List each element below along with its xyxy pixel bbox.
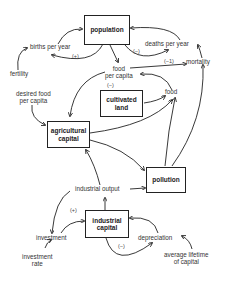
investment-rate-line2: rate	[22, 260, 52, 267]
desired-food-line2: per capita	[16, 97, 51, 104]
var-fertility: fertility	[10, 70, 28, 77]
loop-sign-depreciation: (−)	[118, 243, 125, 249]
stock-industrial-capital: industrial capital	[85, 210, 129, 238]
stock-pollution: pollution	[146, 167, 186, 193]
var-food-per-capita: food per capita	[105, 65, 133, 79]
stock-cultivated-land: cultivated land	[100, 90, 143, 117]
investment-rate-line1: investment	[22, 253, 52, 260]
var-desired-food-per-capita: desired food per capita	[16, 90, 51, 104]
stock-agricultural-capital: agricultural capital	[47, 121, 90, 148]
var-births-per-year: births per year	[30, 43, 70, 50]
food-per-capita-line2: per capita	[105, 72, 133, 79]
var-deaths-per-year: deaths per year	[145, 40, 189, 47]
desired-food-line1: desired food	[16, 90, 51, 97]
var-average-lifetime-of-capital: average lifetime of capital	[164, 251, 208, 265]
avg-lifetime-line2: of capital	[164, 258, 208, 265]
loop-sign-births: (+)	[72, 53, 79, 59]
var-mortality: mortality	[186, 58, 210, 65]
loop-sign-food-per-capita: (−)	[107, 82, 114, 88]
var-depreciation: depreciation	[138, 234, 172, 241]
loop-sign-investment: (+)	[70, 207, 77, 213]
var-food: food	[165, 88, 177, 95]
food-per-capita-line1: food	[105, 65, 133, 72]
var-investment: investment	[36, 234, 66, 241]
var-industrial-output: industrial output	[75, 185, 119, 192]
loop-sign-deaths: (−)	[133, 48, 140, 54]
loop-sign-mortality-food: (−1)	[164, 58, 174, 64]
avg-lifetime-line1: average lifetime	[164, 251, 208, 258]
var-investment-rate: investment rate	[22, 253, 52, 267]
stock-population: population	[84, 15, 130, 45]
